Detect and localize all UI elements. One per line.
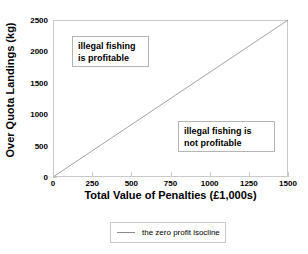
x-tick-mark	[171, 172, 172, 177]
x-tick-label: 0	[51, 179, 55, 188]
x-tick-label: 1250	[240, 179, 258, 188]
y-axis-title: Over Quota Landings (kg)	[0, 0, 20, 180]
y-tick-label: 2500	[16, 16, 48, 25]
y-tick-label: 0	[16, 173, 48, 182]
legend-entry-label: the zero profit isocline	[142, 228, 220, 237]
x-tick-mark	[210, 172, 211, 177]
y-tick-mark	[53, 177, 57, 178]
y-tick-label: 1500	[16, 78, 48, 87]
x-tick-mark	[92, 172, 93, 177]
x-tick-label: 250	[85, 179, 98, 188]
x-tick-label: 750	[164, 179, 177, 188]
annotation-illegal-fishing-is-profitable: illegal fishing is profitable	[72, 36, 149, 67]
x-tick-label: 1000	[201, 179, 219, 188]
chart-legend: the zero profit isocline	[110, 222, 226, 243]
x-tick-label: 1500	[279, 179, 297, 188]
chart-figure: Over Quota Landings (kg) 050010001500200…	[0, 0, 308, 254]
x-tick-mark	[131, 172, 132, 177]
legend-line-swatch	[117, 232, 135, 233]
x-tick-mark	[53, 172, 54, 177]
y-tick-label: 2000	[16, 47, 48, 56]
x-tick-label: 500	[125, 179, 138, 188]
x-tick-mark	[249, 172, 250, 177]
x-tick-mark	[288, 172, 289, 177]
x-axis-title: Total Value of Penalties (£1,000s)	[53, 189, 288, 201]
y-tick-label: 1000	[16, 110, 48, 119]
annotation-illegal-fishing-is-not-profitable: illegal fishing is not profitable	[178, 121, 275, 152]
y-tick-label: 500	[16, 141, 48, 150]
y-axis-title-text: Over Quota Landings (kg)	[4, 22, 16, 157]
